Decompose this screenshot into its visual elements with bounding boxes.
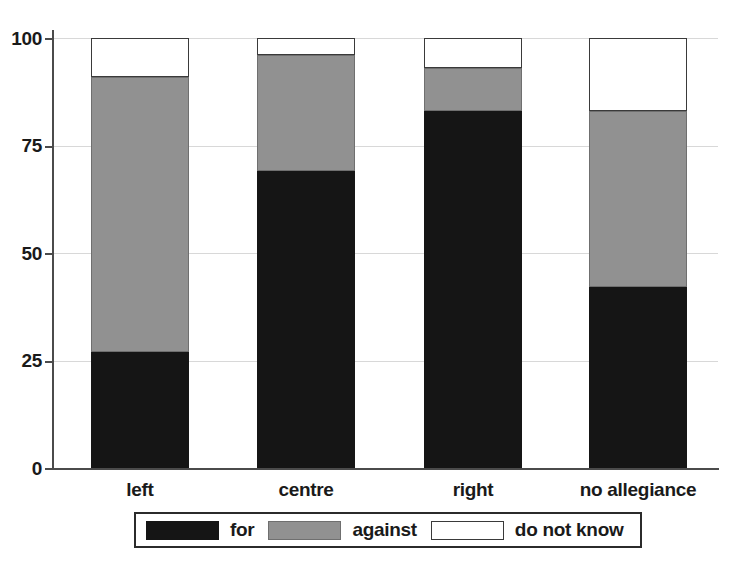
y-tick-label-25: 25 [0, 351, 42, 370]
y-tick-mark-75 [45, 146, 53, 148]
bar-segment-do-not-know[interactable] [424, 38, 522, 68]
bar-segment-do-not-know[interactable] [589, 38, 687, 111]
bar-segment-do-not-know[interactable] [257, 38, 355, 55]
legend-item-against[interactable]: against [258, 514, 420, 546]
stacked-bar-chart: 100 75 50 25 0 left centre right no alle… [0, 0, 742, 565]
legend-label-against: against [352, 519, 416, 541]
y-tick-mark-25 [45, 361, 53, 363]
bar-segment-do-not-know[interactable] [91, 38, 189, 77]
bar-segment-against[interactable] [589, 111, 687, 287]
y-tick-label-0: 0 [0, 459, 42, 478]
bar-group-left[interactable] [91, 38, 189, 468]
bar-segment-for[interactable] [257, 171, 355, 468]
bar-segment-for[interactable] [91, 352, 189, 468]
y-tick-mark-50 [45, 253, 53, 255]
y-tick-label-50: 50 [0, 244, 42, 263]
bar-group-no-allegiance[interactable] [589, 38, 687, 468]
legend-swatch-do-not-know-icon [431, 521, 504, 540]
y-tick-mark-100 [45, 38, 53, 40]
bar-segment-for[interactable] [424, 111, 522, 468]
bar-group-centre[interactable] [257, 38, 355, 468]
bar-segment-against[interactable] [257, 55, 355, 171]
bar-segment-against[interactable] [424, 68, 522, 111]
legend-item-for[interactable]: for [136, 514, 258, 546]
bar-segment-for[interactable] [589, 287, 687, 468]
plot-area [53, 38, 718, 468]
legend-label-do-not-know: do not know [515, 519, 624, 541]
y-axis-line [52, 30, 54, 470]
y-tick-label-100: 100 [0, 29, 42, 48]
legend-label-for: for [230, 519, 254, 541]
bar-segment-against[interactable] [91, 77, 189, 352]
legend-item-do-not-know[interactable]: do not know [421, 514, 628, 546]
legend-swatch-for-icon [146, 521, 219, 540]
x-tick-label-no-allegiance: no allegiance [539, 480, 737, 501]
y-tick-label-75: 75 [0, 136, 42, 155]
x-axis-line [53, 468, 719, 470]
legend-swatch-against-icon [268, 521, 341, 540]
y-tick-mark-0 [45, 468, 53, 470]
chart-legend: for against do not know [134, 512, 642, 548]
bar-group-right[interactable] [424, 38, 522, 468]
